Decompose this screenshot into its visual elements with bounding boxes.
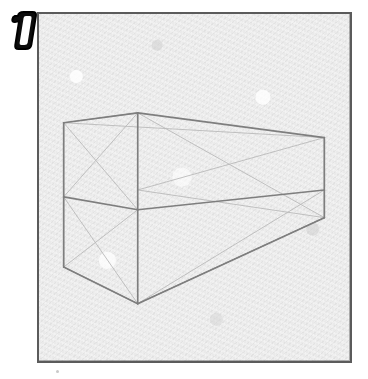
secondary-edges <box>64 113 325 304</box>
number-one-glyph <box>9 9 43 53</box>
diagonal-guides <box>64 113 325 304</box>
construction-lines <box>64 113 325 304</box>
primary-edges <box>64 113 325 304</box>
drawing-panel <box>37 12 352 363</box>
perspective-box-drawing <box>39 14 350 361</box>
screenshot-root <box>0 0 368 379</box>
scan-artifact-speck <box>56 370 59 373</box>
exercise-number-badge <box>9 9 43 53</box>
